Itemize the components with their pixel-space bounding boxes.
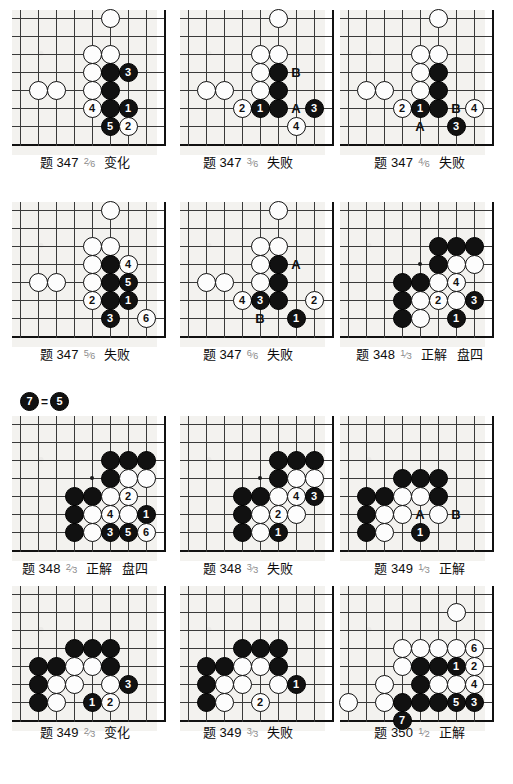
board-grid-line: [20, 202, 21, 338]
black-stone: [269, 273, 288, 292]
white-stone: 2: [393, 99, 412, 118]
black-stone: [429, 255, 448, 274]
black-stone: [305, 451, 324, 470]
caption-label: 题: [356, 347, 369, 362]
white-stone: 4: [465, 675, 484, 694]
caption-result: 失败: [267, 725, 293, 740]
panel-caption: 题 3475⁄6失败: [0, 344, 170, 363]
caption-fraction: 1⁄3: [400, 348, 412, 361]
board-edge-line: [340, 336, 494, 338]
black-stone: 5: [119, 273, 138, 292]
board-grid-line: [242, 202, 243, 338]
black-stone: 1: [287, 309, 306, 328]
black-stone: [251, 487, 270, 506]
caption-fraction-denominator: 6: [90, 351, 95, 361]
caption-fraction: 3⁄3: [247, 726, 259, 739]
board-grid-line: [12, 594, 166, 595]
caption-label: 题: [40, 725, 53, 740]
board-grid-line: [12, 228, 166, 229]
black-stone: [233, 505, 252, 524]
white-stone: [447, 291, 466, 310]
caption-result: 失败: [267, 155, 293, 170]
board-grid-line: [12, 442, 166, 443]
board-grid-line: [180, 18, 334, 19]
white-stone: [287, 469, 306, 488]
board-grid-line: [340, 228, 494, 229]
board-texture: [180, 416, 325, 561]
black-stone: [197, 657, 216, 676]
white-stone: [83, 45, 102, 64]
white-stone: [47, 675, 66, 694]
board-grid-line: [242, 10, 243, 146]
black-stone: [393, 469, 412, 488]
white-stone: 2: [233, 99, 252, 118]
board-grid-line: [180, 36, 334, 37]
caption-fraction: 5⁄6: [84, 348, 96, 361]
board-grid-line: [180, 594, 334, 595]
board-grid-line: [314, 202, 315, 338]
board-grid-line: [146, 10, 147, 146]
board-grid-line: [224, 10, 225, 146]
black-stone: 3: [251, 291, 270, 310]
board-grid-line: [474, 10, 475, 146]
black-stone: [287, 451, 306, 470]
caption-result: 正解: [421, 347, 447, 362]
white-stone: [393, 487, 412, 506]
caption-result: 变化: [104, 155, 130, 170]
black-stone: [429, 693, 448, 712]
black-stone: [429, 487, 448, 506]
diagram-panel: 4321题 3483⁄3失败: [170, 384, 326, 574]
white-stone: 2: [83, 291, 102, 310]
white-stone: [215, 675, 234, 694]
star-point: [258, 476, 262, 480]
board-grid-line: [56, 416, 57, 552]
black-stone: 3: [101, 523, 120, 542]
white-stone: [411, 291, 430, 310]
black-stone: [101, 469, 120, 488]
white-stone: [251, 45, 270, 64]
caption-problem-number: 347: [56, 347, 78, 362]
white-stone: 4: [287, 117, 306, 136]
go-board: 34152: [12, 10, 157, 155]
black-stone: 3: [465, 693, 484, 712]
white-stone: [269, 201, 288, 220]
white-stone: [29, 81, 48, 100]
white-stone: [429, 45, 448, 64]
caption-label: 题: [40, 155, 53, 170]
black-stone: [269, 469, 288, 488]
white-stone: [429, 639, 448, 658]
go-board: 2134BA: [180, 10, 325, 155]
black-stone: [269, 255, 288, 274]
black-stone: [101, 63, 120, 82]
board-grid-line: [180, 424, 334, 425]
board-edge-line: [12, 550, 166, 552]
white-stone: [83, 273, 102, 292]
panel-caption: 题 3501⁄2正解: [326, 722, 513, 741]
diagram-panel: 312题 3492⁄3变化: [0, 574, 170, 784]
board-grid-line: [456, 416, 457, 552]
white-stone: [47, 273, 66, 292]
black-stone: [251, 639, 270, 658]
panel-caption: 题 3481⁄3正解盘四: [326, 344, 513, 363]
white-stone: [83, 81, 102, 100]
black-stone: 3: [119, 675, 138, 694]
diagram-panel: 2134BA题 3473⁄6失败: [170, 0, 326, 192]
white-stone: [429, 9, 448, 28]
black-stone: [101, 451, 120, 470]
black-stone: [429, 81, 448, 100]
black-stone: 1: [411, 523, 430, 542]
white-stone: 4: [101, 505, 120, 524]
black-stone: 3: [305, 487, 324, 506]
go-board: 4231: [340, 202, 485, 347]
panel-caption: 题 3472⁄6变化: [0, 152, 170, 171]
black-stone: 5: [50, 392, 69, 411]
white-stone: [233, 675, 252, 694]
diagram-panel: 1AB题 3491⁄3正解: [326, 384, 513, 574]
board-edge-line: [164, 202, 166, 338]
panel-caption: 题 3476⁄6失败: [170, 344, 326, 363]
black-stone: [101, 657, 120, 676]
white-stone: [251, 505, 270, 524]
caption-label: 题: [374, 725, 387, 740]
white-stone: [215, 693, 234, 712]
board-edge-line: [180, 336, 334, 338]
